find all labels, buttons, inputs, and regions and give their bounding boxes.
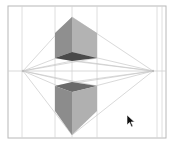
mouse-cursor-icon [126, 114, 136, 128]
vanishing-point-left[interactable] [22, 70, 24, 72]
perspective-diagram[interactable] [0, 0, 170, 154]
vanishing-point-right[interactable] [152, 70, 154, 72]
